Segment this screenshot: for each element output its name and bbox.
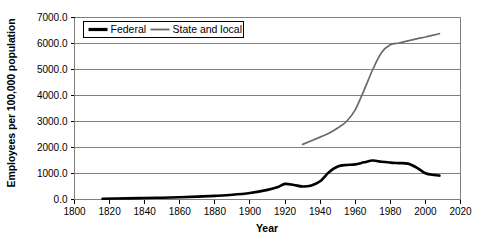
x-tick-label: 1900	[239, 206, 262, 217]
x-tick-label: 1960	[344, 206, 367, 217]
y-tick-label: 7000.0	[37, 12, 68, 23]
y-tick-label: 5000.0	[37, 64, 68, 75]
y-tick-label: 3000.0	[37, 116, 68, 127]
x-tick-label: 1800	[63, 206, 86, 217]
chart-legend: FederalState and local	[84, 22, 244, 38]
y-tick-label: 1000.0	[37, 168, 68, 179]
chart-container: Employees per 100,000 population Year 0.…	[0, 0, 483, 241]
legend-label-state-and-local: State and local	[173, 23, 242, 35]
x-tick-label: 2000	[414, 206, 437, 217]
x-axis-ticks: 1800182018401860188019001920194019601980…	[63, 200, 472, 217]
x-tick-label: 1920	[274, 206, 297, 217]
y-axis-ticks: 0.01000.02000.03000.04000.05000.06000.07…	[37, 12, 75, 205]
x-tick-label: 1880	[204, 206, 227, 217]
series-line-federal	[103, 160, 440, 198]
y-tick-label: 6000.0	[37, 38, 68, 49]
x-tick-label: 1980	[379, 206, 402, 217]
y-tick-label: 2000.0	[37, 142, 68, 153]
x-tick-label: 1840	[134, 206, 157, 217]
gridlines	[75, 18, 461, 174]
line-chart-plot: 0.01000.02000.03000.04000.05000.06000.07…	[0, 0, 483, 241]
x-tick-label: 1860	[169, 206, 192, 217]
y-tick-label: 0.0	[54, 194, 68, 205]
y-tick-label: 4000.0	[37, 90, 68, 101]
legend-label-federal: Federal	[111, 23, 147, 35]
x-tick-label: 1820	[98, 206, 121, 217]
series-line-state-and-local	[303, 34, 440, 145]
x-tick-label: 1940	[309, 206, 332, 217]
axes	[75, 18, 461, 200]
x-tick-label: 2020	[449, 206, 472, 217]
